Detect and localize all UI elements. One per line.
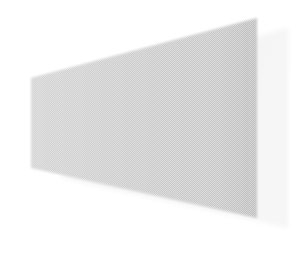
figure-svg: [0, 0, 296, 262]
image-canvas: [0, 0, 296, 262]
